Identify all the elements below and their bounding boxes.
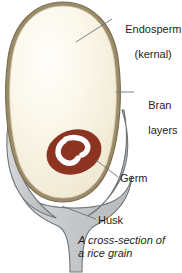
label-bran-line1: Bran <box>148 99 171 111</box>
caption-line1: A cross-section of <box>78 234 182 247</box>
figure-caption: A cross-section of a rice grain <box>78 234 182 260</box>
label-germ: Germ <box>120 172 148 185</box>
label-bran-line2: layers <box>148 124 177 136</box>
rice-grain-diagram: Endosperm (kernal) Bran layers Germ Husk… <box>0 0 182 273</box>
caption-line2: a rice grain <box>78 247 182 260</box>
label-endosperm: Endosperm (kernal) <box>113 10 181 73</box>
label-endosperm-line1: Endosperm <box>125 23 181 35</box>
label-bran-layers: Bran layers <box>136 86 178 149</box>
label-husk: Husk <box>98 214 123 227</box>
label-endosperm-line2: (kernal) <box>134 48 171 60</box>
